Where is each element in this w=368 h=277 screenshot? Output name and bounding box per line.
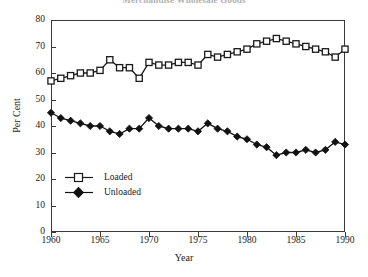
y-axis-tick-label: 10	[21, 201, 45, 211]
legend-label-unloaded: Unloaded	[104, 185, 141, 200]
y-axis-tick-mark	[51, 20, 56, 21]
x-axis-tick-mark	[149, 232, 150, 237]
x-axis-tick-mark	[247, 232, 248, 237]
y-axis-tick-label: 70	[21, 42, 45, 52]
x-axis-tick-label: 1970	[129, 236, 169, 246]
x-axis-tick-label: 1965	[80, 236, 120, 246]
x-axis-title: Year	[0, 252, 368, 263]
y-axis-tick-mark	[51, 206, 56, 207]
x-axis-tick-label: 1975	[178, 236, 218, 246]
legend-item-loaded: Loaded	[64, 170, 182, 185]
y-axis-tick-label: 60	[21, 68, 45, 78]
x-axis-tick-mark	[296, 232, 297, 237]
legend-label-loaded: Loaded	[104, 170, 133, 185]
y-axis-tick-mark	[51, 47, 56, 48]
chart-legend: Loaded Unloaded	[64, 170, 182, 200]
x-axis-tick-mark	[51, 232, 52, 237]
y-axis-tick-mark	[51, 73, 56, 74]
x-axis-tick-mark	[100, 232, 101, 237]
x-axis-tick-label: 1985	[276, 236, 316, 246]
y-axis-tick-label: 80	[21, 15, 45, 25]
y-axis-tick-label: 20	[21, 174, 45, 184]
x-axis-tick-mark	[345, 232, 346, 237]
x-axis-tick-mark	[198, 232, 199, 237]
x-axis-tick-label: 1960	[31, 236, 71, 246]
y-axis-tick-label: 40	[21, 121, 45, 131]
legend-marker-open-square	[64, 170, 94, 185]
y-axis-title: Per Cent	[11, 86, 22, 146]
y-axis-tick-mark	[51, 153, 56, 154]
y-axis-tick-mark	[51, 126, 56, 127]
chart-figure: Merchandise Wholesale Goods 807060504030…	[0, 0, 368, 277]
y-axis-tick-label: 50	[21, 95, 45, 105]
legend-marker-filled-diamond	[64, 185, 94, 200]
y-axis-tick-label: 30	[21, 148, 45, 158]
x-axis-tick-label: 1980	[227, 236, 267, 246]
legend-item-unloaded: Unloaded	[64, 185, 182, 200]
plot-area	[51, 20, 345, 232]
y-axis-tick-mark	[51, 179, 56, 180]
y-axis-tick-mark	[51, 100, 56, 101]
chart-title: Merchandise Wholesale Goods	[0, 0, 368, 4]
x-axis-tick-label: 1990	[325, 236, 365, 246]
